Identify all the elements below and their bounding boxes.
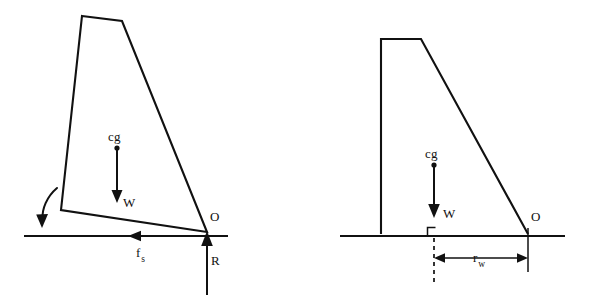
moment-arm-label-base: r [473, 250, 477, 265]
rotation-arrowhead [36, 214, 48, 228]
diagram-canvas [0, 0, 589, 302]
moment-arm-label-subscript: w [478, 259, 485, 269]
cg-label-right: cg [425, 147, 438, 160]
upright-block-outline [381, 39, 528, 234]
figure-root: cg W fs O R cg W O rw [0, 0, 589, 302]
left-panel-group [24, 16, 228, 295]
pivot-label-left: O [210, 210, 220, 223]
weight-arrowhead-left [112, 190, 123, 203]
cg-label-left: cg [108, 130, 121, 143]
reaction-label: R [211, 254, 220, 267]
pivot-label-right: O [531, 210, 541, 223]
right-angle-marker [428, 228, 436, 237]
cg-marker-left [114, 145, 119, 150]
weight-label-left: W [123, 196, 136, 209]
weight-label-right: W [443, 207, 456, 220]
weight-arrowhead-right [428, 204, 440, 218]
friction-arrowhead [128, 231, 141, 241]
dimension-arrowhead-left [434, 253, 445, 263]
dimension-arrowhead-right [517, 253, 528, 263]
right-panel-group [340, 39, 565, 286]
friction-label-base: f [136, 245, 140, 260]
cg-marker-right [431, 162, 436, 167]
reaction-arrowhead [201, 231, 213, 246]
friction-label-group: fs [136, 243, 144, 261]
moment-arm-label-group: rw [473, 248, 484, 266]
friction-label-subscript: s [141, 254, 145, 264]
